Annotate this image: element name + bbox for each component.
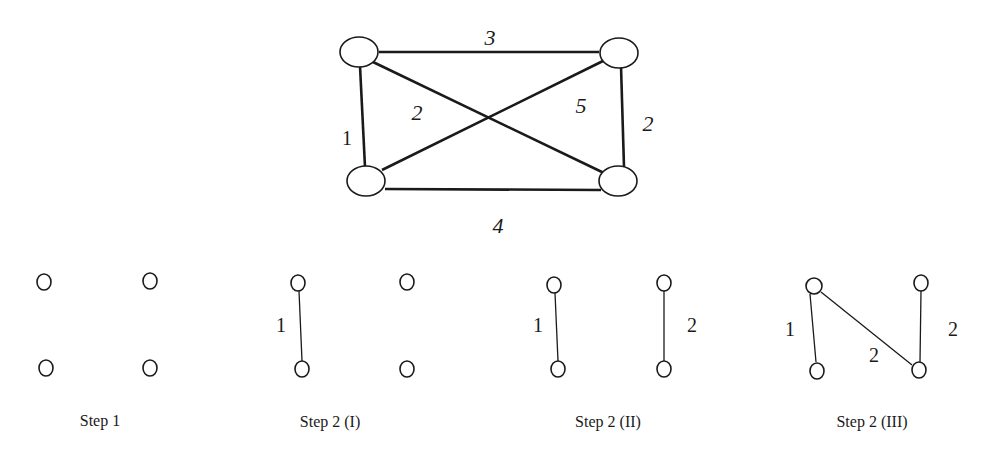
step1-node-top-right — [143, 273, 157, 289]
step2iii-node-top-left — [806, 278, 822, 294]
step2ii-node-top-left — [547, 277, 561, 293]
node-bottom-right — [599, 166, 637, 196]
step-2-ii-caption: Step 2 (II) — [575, 413, 641, 431]
step2ii-weight-label-tr-br: 2 — [687, 314, 697, 336]
node-top-left — [340, 37, 378, 67]
step2iii-node-bottom-left — [810, 363, 824, 379]
step2iii-weight-label-tl-br: 2 — [869, 344, 879, 366]
step-2-ii-graph: 1 2 Step 2 (II) — [533, 275, 697, 431]
step2iii-weight-label-tr-br: 2 — [948, 318, 958, 340]
step2iii-node-bottom-right — [912, 362, 926, 378]
step2i-node-top-left — [291, 275, 305, 291]
node-bottom-left — [347, 166, 385, 196]
step2i-node-top-right — [400, 274, 414, 290]
step2iii-node-top-right — [914, 275, 928, 291]
step2ii-node-bottom-left — [551, 361, 565, 377]
weight-label-bl-tr: 5 — [576, 93, 587, 118]
weight-label-tl-tr: 3 — [484, 25, 496, 50]
edge-tl-bl — [360, 66, 365, 167]
step2iii-edge-tl-br — [821, 292, 912, 365]
step2i-weight-label-tl-bl: 1 — [276, 314, 286, 336]
step-1-caption: Step 1 — [80, 412, 120, 430]
main-graph: 3 1 2 5 2 4 — [340, 25, 654, 238]
step1-node-bottom-left — [39, 360, 53, 376]
step2ii-node-bottom-right — [657, 361, 671, 377]
step-2-iii-caption: Step 2 (III) — [836, 413, 907, 431]
weight-label-tl-br: 2 — [412, 100, 423, 125]
step2ii-node-top-right — [657, 275, 671, 291]
step-2-i-graph: 1 Step 2 (I) — [276, 274, 414, 431]
step2iii-edge-tr-br — [920, 291, 921, 362]
step2i-node-bottom-right — [400, 361, 414, 377]
step-2-iii-graph: 1 2 2 Step 2 (III) — [785, 275, 958, 431]
step2i-node-bottom-left — [295, 361, 309, 377]
step2i-edge-tl-bl — [299, 291, 302, 361]
edge-bl-br — [385, 189, 601, 190]
step-2-i-caption: Step 2 (I) — [300, 413, 360, 431]
weight-label-bl-br: 4 — [493, 213, 504, 238]
step-1-graph: Step 1 — [37, 273, 157, 430]
weight-label-tl-bl: 1 — [342, 127, 352, 149]
node-top-right — [600, 38, 638, 68]
mst-diagram: 3 1 2 5 2 4 Step 1 1 Step 2 (I) 1 2 Step… — [0, 0, 984, 451]
step1-node-top-left — [37, 274, 51, 290]
weight-label-tr-br: 2 — [643, 111, 654, 136]
step2iii-weight-label-tl-bl: 1 — [785, 318, 795, 340]
step1-node-bottom-right — [143, 360, 157, 376]
step2ii-edge-tl-bl — [555, 293, 558, 361]
step2ii-weight-label-tl-bl: 1 — [533, 314, 543, 336]
edge-tr-br — [621, 66, 624, 167]
step2iii-edge-tl-bl — [810, 294, 816, 362]
